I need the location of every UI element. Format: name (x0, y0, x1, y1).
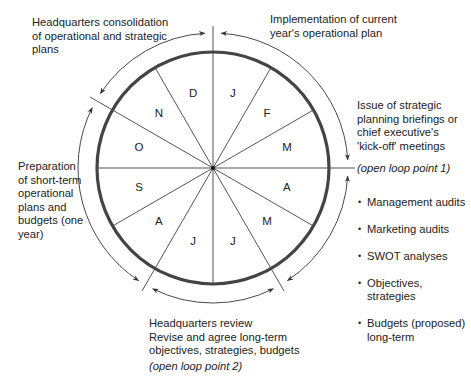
month-label: A (155, 215, 163, 227)
month-label: A (283, 181, 291, 193)
preparation-label: Preparation of short-term operational pl… (18, 160, 83, 241)
phase-arc-arrow (153, 289, 273, 303)
phase-arc-arrow (288, 176, 348, 280)
hq-consolidation-label: Headquarters consolidation of operationa… (32, 16, 168, 57)
month-divider-lines (90, 26, 355, 291)
bullet-item: Management audits (358, 196, 465, 210)
month-label: M (282, 141, 292, 153)
month-label: O (135, 141, 144, 153)
bullet-item: Budgets (proposed) long-term (358, 317, 465, 344)
hq-review-label: Headquarters review Revise and agree lon… (149, 317, 300, 358)
month-label: J (230, 87, 236, 99)
month-label: N (155, 107, 163, 119)
month-label: F (264, 107, 271, 119)
audit-bullet-list: Management audits Marketing audits SWOT … (358, 182, 465, 358)
center-hub (211, 166, 215, 170)
bullet-item: Objectives, strategies (358, 277, 465, 304)
open-loop-point-2: (open loop point 2) (149, 360, 242, 374)
implementation-label: Implementation of current year's operati… (270, 13, 397, 40)
bullet-item: Marketing audits (358, 223, 465, 237)
month-label: M (262, 215, 272, 227)
open-loop-point-1: (open loop point 1) (357, 162, 450, 176)
issue-briefings-label: Issue of strategic planning briefings or… (357, 99, 458, 153)
month-label: J (230, 235, 236, 247)
bullet-item: SWOT analyses (358, 250, 465, 264)
phase-arc-arrow (78, 108, 138, 281)
month-label: D (189, 87, 197, 99)
month-label: S (135, 181, 143, 193)
month-label: J (190, 235, 196, 247)
